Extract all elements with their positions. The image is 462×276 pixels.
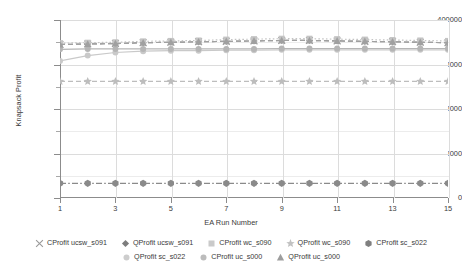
- x-tick-label: 3: [105, 205, 125, 212]
- legend-entry[interactable]: QProfit ucsw_s091: [121, 239, 193, 248]
- x-axis-title: EA Run Number: [0, 218, 462, 227]
- data-point: [388, 77, 396, 85]
- data-point: [84, 77, 92, 85]
- data-point: [250, 77, 258, 85]
- data-point: [223, 180, 229, 187]
- data-point: [390, 45, 396, 51]
- legend-row: QProfit sc_s022CProfit uc_s000QProfit uc…: [0, 250, 462, 264]
- x-tick-label: 13: [383, 205, 403, 212]
- data-point: [139, 77, 147, 85]
- data-point: [305, 77, 313, 85]
- legend-entry[interactable]: CProfit uc_s000: [199, 253, 262, 262]
- legend-entry[interactable]: CProfit wc_s090: [207, 239, 271, 248]
- legend-row: CProfit ucsw_s091QProfit ucsw_s091CProfi…: [0, 236, 462, 250]
- hexagon-marker-icon: [364, 239, 373, 248]
- legend-entry[interactable]: CProfit sc_s022: [364, 239, 427, 248]
- x-marker-icon: [35, 239, 44, 248]
- data-point: [279, 45, 285, 51]
- knapsack-profit-chart: Knapsack Profit 010000020000030000040000…: [0, 0, 462, 276]
- data-point: [334, 45, 340, 51]
- legend-label: QProfit ucsw_s091: [133, 239, 193, 246]
- data-point: [112, 180, 118, 187]
- data-point: [60, 180, 63, 187]
- data-point: [416, 77, 424, 85]
- x-tick: [115, 198, 116, 203]
- data-point: [60, 58, 63, 64]
- data-point: [389, 180, 395, 187]
- legend-entry[interactable]: CProfit ucsw_s091: [35, 239, 107, 248]
- y-axis-title: Knapsack Profit: [14, 41, 23, 161]
- legend-entry[interactable]: QProfit wc_s090: [286, 239, 351, 248]
- data-point: [140, 46, 146, 52]
- data-point: [417, 180, 423, 187]
- data-point: [251, 46, 257, 52]
- data-point: [223, 46, 229, 52]
- x-tick: [171, 198, 172, 203]
- data-point: [251, 180, 257, 187]
- data-point: [168, 46, 174, 52]
- legend-label: CProfit uc_s000: [211, 253, 262, 260]
- data-point: [362, 180, 368, 187]
- data-point: [140, 180, 146, 187]
- x-tick: [282, 198, 283, 203]
- circle-marker-icon: [122, 253, 131, 262]
- diamond-marker-icon: [121, 239, 130, 248]
- data-point: [361, 77, 369, 85]
- gridline-vertical: [449, 20, 450, 198]
- data-point: [167, 77, 175, 85]
- data-point: [445, 180, 448, 187]
- data-point: [85, 53, 91, 59]
- data-point: [85, 180, 91, 187]
- legend-entry[interactable]: QProfit sc_s022: [122, 253, 185, 262]
- x-tick-label: 7: [216, 205, 236, 212]
- series-layer: [60, 20, 448, 198]
- star-marker-icon: [286, 239, 295, 248]
- data-point: [417, 45, 423, 51]
- chart-legend: CProfit ucsw_s091QProfit ucsw_s091CProfi…: [0, 236, 462, 264]
- x-tick-label: 11: [327, 205, 347, 212]
- data-point: [278, 77, 286, 85]
- legend-label: QProfit uc_s000: [288, 253, 340, 260]
- x-tick: [60, 198, 61, 203]
- circle-marker-icon: [199, 253, 208, 262]
- legend-label: CProfit wc_s090: [219, 239, 271, 246]
- data-point: [222, 77, 230, 85]
- data-point: [168, 180, 174, 187]
- data-point: [111, 77, 119, 85]
- data-point: [112, 46, 118, 52]
- x-tick-label: 9: [272, 205, 292, 212]
- series-3: [60, 77, 448, 85]
- legend-label: QProfit sc_s022: [134, 253, 185, 260]
- data-point: [306, 45, 312, 51]
- x-tick: [226, 198, 227, 203]
- data-point: [362, 45, 368, 51]
- data-point: [334, 180, 340, 187]
- x-tick: [448, 198, 449, 203]
- data-point: [194, 77, 202, 85]
- legend-label: CProfit sc_s022: [376, 239, 427, 246]
- data-point: [333, 77, 341, 85]
- x-tick-label: 1: [50, 205, 70, 212]
- data-point: [195, 180, 201, 187]
- x-tick: [393, 198, 394, 203]
- legend-entry[interactable]: QProfit uc_s000: [276, 253, 340, 262]
- x-tick-label: 5: [161, 205, 181, 212]
- legend-label: QProfit wc_s090: [298, 239, 351, 246]
- series-4: [60, 180, 448, 187]
- triangle-marker-icon: [276, 253, 285, 262]
- data-point: [279, 180, 285, 187]
- data-point: [306, 180, 312, 187]
- square-marker-icon: [207, 239, 216, 248]
- x-tick-label: 15: [438, 205, 458, 212]
- data-point: [196, 46, 202, 52]
- x-tick: [337, 198, 338, 203]
- legend-label: CProfit ucsw_s091: [47, 239, 107, 246]
